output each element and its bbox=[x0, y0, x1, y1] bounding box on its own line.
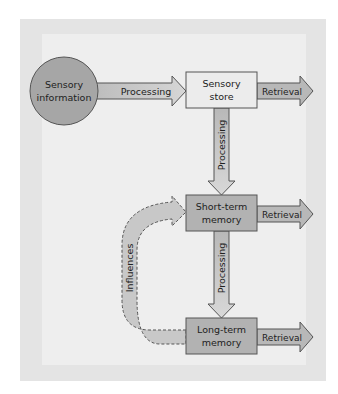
sensory-to-short-processing-arrow: Processing bbox=[208, 108, 235, 195]
short-term-memory-node: Short-term memory bbox=[186, 195, 257, 231]
long-term-memory-node: Long-term memory bbox=[186, 318, 257, 354]
short-to-long-processing-label: Processing bbox=[216, 243, 227, 294]
retrieval-short-label: Retrieval bbox=[262, 210, 302, 220]
sensory-store-line1: Sensory bbox=[202, 78, 241, 89]
input-processing-arrow: Processing bbox=[96, 76, 186, 106]
influences-arrow: Influences bbox=[122, 196, 186, 344]
retrieval-sensory-arrow: Retrieval bbox=[257, 76, 313, 106]
long-term-line1: Long-term bbox=[197, 324, 246, 335]
sensory-store-node: Sensory store bbox=[186, 72, 257, 108]
sensory-information-line2: information bbox=[37, 92, 92, 103]
retrieval-short-arrow: Retrieval bbox=[257, 199, 313, 229]
short-term-line2: memory bbox=[202, 214, 242, 225]
short-to-long-processing-arrow: Processing bbox=[208, 231, 235, 318]
input-processing-label: Processing bbox=[121, 86, 172, 97]
sensory-information-node: Sensory information bbox=[30, 57, 98, 125]
sensory-store-line2: store bbox=[209, 91, 233, 102]
retrieval-long-arrow: Retrieval bbox=[257, 322, 313, 352]
memory-model-diagram: Influences Processing Processing Process… bbox=[0, 0, 338, 394]
retrieval-sensory-label: Retrieval bbox=[262, 87, 302, 97]
long-term-line2: memory bbox=[202, 337, 242, 348]
sensory-information-line1: Sensory bbox=[45, 79, 84, 90]
short-term-line1: Short-term bbox=[196, 201, 248, 212]
influences-label: Influences bbox=[124, 244, 135, 293]
retrieval-long-label: Retrieval bbox=[262, 333, 302, 343]
sensory-to-short-processing-label: Processing bbox=[216, 120, 227, 171]
